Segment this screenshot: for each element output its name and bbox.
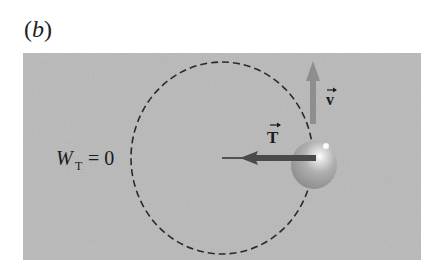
- physics-figure: (b): [0, 0, 442, 273]
- svg-text:v: v: [326, 91, 334, 108]
- svg-text:W: W: [56, 147, 75, 169]
- svg-text:T: T: [267, 128, 279, 147]
- ball: [291, 141, 337, 189]
- svg-text:T: T: [75, 159, 83, 173]
- svg-text:= 0: = 0: [88, 147, 114, 169]
- diagram-canvas: T v W T = 0: [0, 0, 442, 273]
